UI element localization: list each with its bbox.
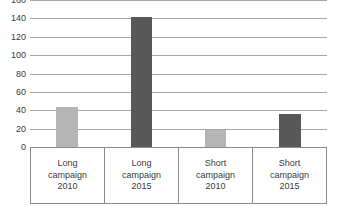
category-label-line: 2015 <box>131 181 151 193</box>
category-label-line: campaign <box>270 170 309 182</box>
y-axis-tick-label: 100 <box>0 51 26 60</box>
category-label-cell: Longcampaign2010 <box>31 148 105 203</box>
category-label-line: campaign <box>122 170 161 182</box>
y-axis-tick-label: 160 <box>0 0 26 5</box>
bar[interactable] <box>279 114 301 147</box>
category-label-line: 2010 <box>205 181 225 193</box>
category-label-line: campaign <box>196 170 235 182</box>
bar[interactable] <box>56 107 78 147</box>
category-label-line: Short <box>279 158 301 170</box>
bar[interactable] <box>205 130 227 147</box>
category-label-line: Short <box>205 158 227 170</box>
bar-slot <box>30 0 104 147</box>
y-axis-tick-label: 120 <box>0 32 26 41</box>
plot-area <box>30 0 327 147</box>
y-axis-tick-label: 140 <box>0 14 26 23</box>
y-axis-tick-label: 0 <box>0 143 26 152</box>
bar-slot <box>104 0 178 147</box>
bar[interactable] <box>131 17 153 147</box>
category-label-cell: Shortcampaign2015 <box>253 148 326 203</box>
y-axis-tick-label: 40 <box>0 106 26 115</box>
category-label-line: 2015 <box>279 181 299 193</box>
category-label-cell: Longcampaign2015 <box>105 148 179 203</box>
category-label-line: Long <box>131 158 151 170</box>
y-axis-tick-label: 80 <box>0 69 26 78</box>
y-axis-tick-label: 60 <box>0 87 26 96</box>
bars-container <box>30 0 327 147</box>
y-axis-tick-label: 20 <box>0 124 26 133</box>
bar-slot <box>179 0 253 147</box>
bar-chart: 160140120100806040200 Longcampaign2010Lo… <box>0 0 340 207</box>
category-label-line: campaign <box>48 170 87 182</box>
category-label-table: Longcampaign2010Longcampaign2015Shortcam… <box>30 147 327 204</box>
category-label-cell: Shortcampaign2010 <box>179 148 253 203</box>
y-axis: 160140120100806040200 <box>0 0 26 147</box>
category-label-line: Long <box>57 158 77 170</box>
bar-slot <box>253 0 327 147</box>
category-label-line: 2010 <box>57 181 77 193</box>
